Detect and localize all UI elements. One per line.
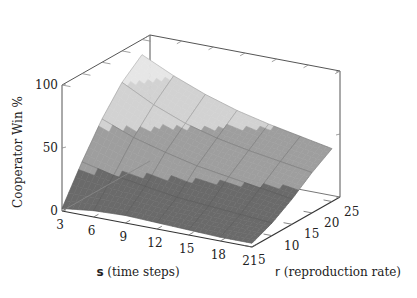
y-tick xyxy=(304,211,312,213)
y-tick xyxy=(324,200,332,202)
x-tick-label: 3 xyxy=(56,218,64,232)
x-tick-top xyxy=(209,47,214,50)
z-tick xyxy=(62,147,66,148)
y-tick-top xyxy=(102,62,110,64)
z-axis-title: Cooperator Win % xyxy=(11,96,25,208)
y-tick-top xyxy=(142,40,150,42)
x-tick-label: 15 xyxy=(179,242,194,256)
y-tick-label: 20 xyxy=(324,216,339,230)
x-tick xyxy=(252,244,257,247)
x-tick xyxy=(94,214,99,217)
x-tick-label: 6 xyxy=(88,224,96,238)
y-tick-top xyxy=(62,85,70,87)
z-tick-label: 100 xyxy=(35,78,58,92)
surface-chart: 36912151821510152025050100 Cooperator Wi… xyxy=(0,0,417,298)
x-tick xyxy=(125,220,130,223)
y-tick-top xyxy=(122,51,130,53)
x-tick-label: 9 xyxy=(120,230,128,244)
x-tick-label: 18 xyxy=(211,248,226,262)
x-axis-symbol: s xyxy=(96,265,103,279)
x-tick-label: 12 xyxy=(147,236,162,250)
z-tick-label: 50 xyxy=(43,141,58,155)
y-tick-label: 10 xyxy=(284,239,299,253)
x-tick xyxy=(220,238,225,241)
x-tick xyxy=(189,232,194,235)
z-tick xyxy=(62,210,66,211)
z-tick-back xyxy=(336,134,340,135)
y-tick xyxy=(284,223,292,225)
x-tick-top xyxy=(272,59,277,62)
x-tick xyxy=(157,226,162,229)
x-tick-label: 21 xyxy=(242,254,257,268)
y-tick-label: 15 xyxy=(304,227,319,241)
y-tick-label: 5 xyxy=(258,253,266,267)
x-tick-top xyxy=(240,53,245,56)
x-axis-title: s (time steps) xyxy=(96,265,179,279)
z-tick-back xyxy=(336,71,340,72)
y-tick-label: 25 xyxy=(344,205,359,219)
surface-plot xyxy=(62,55,332,244)
y-axis-title: r (reproduction rate) xyxy=(275,265,401,279)
x-tick-top xyxy=(177,41,182,44)
x-axis-desc: (time steps) xyxy=(104,265,180,279)
y-axis-desc: (reproduction rate) xyxy=(280,265,401,279)
x-tick-top xyxy=(145,35,150,38)
z-tick-label: 0 xyxy=(50,204,58,218)
y-tick xyxy=(264,234,272,236)
y-tick-top xyxy=(82,74,90,76)
x-tick-top xyxy=(304,65,309,68)
